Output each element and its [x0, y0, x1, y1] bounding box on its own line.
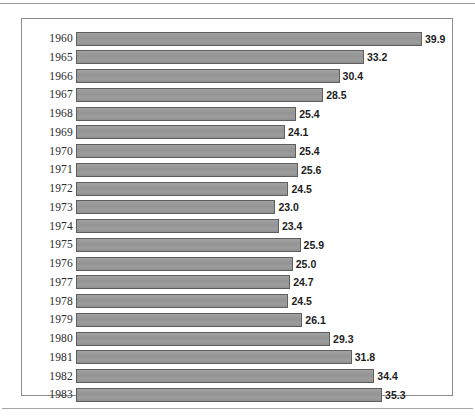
bar-value-label-1971: 25.6 [301, 163, 321, 177]
bar-value-label-1966: 30.4 [343, 69, 363, 83]
bar-1978 [76, 294, 288, 308]
bar-track: 28.5 [76, 85, 452, 104]
chart-row: 196728.5 [22, 85, 452, 104]
chart-row: 196630.4 [22, 67, 452, 86]
bar-1969 [76, 125, 285, 139]
bar-1972 [76, 182, 288, 196]
chart-row: 197525.9 [22, 235, 452, 254]
chart-row: 197025.4 [22, 142, 452, 161]
chart-row: 197926.1 [22, 310, 452, 329]
bar-track: 24.5 [76, 292, 452, 311]
bar-1982 [76, 369, 374, 383]
category-label-1960: 1960 [22, 29, 73, 48]
category-label-1968: 1968 [22, 104, 73, 123]
category-label-1966: 1966 [22, 67, 73, 86]
category-label-1971: 1971 [22, 160, 73, 179]
bar-value-label-1969: 24.1 [288, 125, 308, 139]
bar-value-label-1979: 26.1 [305, 313, 325, 327]
bar-1979 [76, 313, 302, 327]
plot-area: 196039.9196533.2196630.4196728.5196825.4… [22, 19, 452, 395]
bar-track: 29.3 [76, 329, 452, 348]
bar-1983 [76, 388, 382, 402]
chart-row: 196533.2 [22, 48, 452, 67]
chart-row: 197125.6 [22, 160, 452, 179]
bar-1981 [76, 350, 352, 364]
bar-track: 24.5 [76, 179, 452, 198]
bar-1973 [76, 200, 275, 214]
bar-track: 25.6 [76, 160, 452, 179]
bar-value-label-1967: 28.5 [326, 88, 346, 102]
bar-track: 24.1 [76, 123, 452, 142]
category-label-1980: 1980 [22, 329, 73, 348]
category-label-1970: 1970 [22, 142, 73, 161]
category-label-1967: 1967 [22, 85, 73, 104]
bar-value-label-1981: 31.8 [355, 350, 375, 364]
bar-1974 [76, 219, 279, 233]
category-label-1981: 1981 [22, 348, 73, 367]
bar-value-label-1968: 25.4 [299, 107, 319, 121]
bar-track: 23.4 [76, 217, 452, 236]
chart-row: 198335.3 [22, 385, 452, 404]
bar-1975 [76, 238, 301, 252]
page-rule-top [0, 3, 475, 4]
bar-1967 [76, 88, 323, 102]
bar-value-label-1965: 33.2 [367, 50, 387, 64]
bar-track: 30.4 [76, 67, 452, 86]
chart-row: 196825.4 [22, 104, 452, 123]
bar-track: 23.0 [76, 198, 452, 217]
bar-1976 [76, 257, 293, 271]
bar-1968 [76, 107, 296, 121]
bar-track: 25.0 [76, 254, 452, 273]
bar-1980 [76, 332, 330, 346]
bar-1971 [76, 163, 298, 177]
bar-value-label-1974: 23.4 [282, 219, 302, 233]
category-label-1977: 1977 [22, 273, 73, 292]
bar-value-label-1978: 24.5 [291, 294, 311, 308]
bar-track: 25.4 [76, 104, 452, 123]
category-label-1979: 1979 [22, 310, 73, 329]
chart-row: 196924.1 [22, 123, 452, 142]
chart-row: 198131.8 [22, 348, 452, 367]
chart-frame: 196039.9196533.2196630.4196728.5196825.4… [21, 18, 453, 396]
bar-track: 33.2 [76, 48, 452, 67]
bar-track: 31.8 [76, 348, 452, 367]
bar-1977 [76, 275, 290, 289]
chart-row: 197224.5 [22, 179, 452, 198]
bar-value-label-1975: 25.9 [304, 238, 324, 252]
bar-track: 35.3 [76, 385, 452, 404]
chart-row: 198029.3 [22, 329, 452, 348]
chart-row: 197724.7 [22, 273, 452, 292]
category-label-1983: 1983 [22, 385, 73, 404]
bar-value-label-1970: 25.4 [299, 144, 319, 158]
bar-value-label-1980: 29.3 [333, 332, 353, 346]
category-label-1965: 1965 [22, 48, 73, 67]
bar-track: 34.4 [76, 367, 452, 386]
bar-value-label-1973: 23.0 [278, 200, 298, 214]
bar-value-label-1976: 25.0 [296, 257, 316, 271]
category-label-1974: 1974 [22, 217, 73, 236]
category-label-1969: 1969 [22, 123, 73, 142]
category-label-1982: 1982 [22, 367, 73, 386]
bar-1965 [76, 50, 364, 64]
category-label-1975: 1975 [22, 235, 73, 254]
chart-row: 197625.0 [22, 254, 452, 273]
category-label-1972: 1972 [22, 179, 73, 198]
bar-track: 25.4 [76, 142, 452, 161]
bar-value-label-1982: 34.4 [377, 369, 397, 383]
page-rule-bottom [2, 408, 473, 409]
bar-value-label-1960: 39.9 [425, 32, 445, 46]
bar-track: 26.1 [76, 310, 452, 329]
category-label-1976: 1976 [22, 254, 73, 273]
bar-value-label-1977: 24.7 [293, 275, 313, 289]
category-label-1973: 1973 [22, 198, 73, 217]
bar-track: 25.9 [76, 235, 452, 254]
chart-row: 198234.4 [22, 367, 452, 386]
bar-1966 [76, 69, 340, 83]
bar-track: 39.9 [76, 29, 452, 48]
bar-1970 [76, 144, 296, 158]
bar-1960 [76, 32, 422, 46]
bar-value-label-1972: 24.5 [291, 182, 311, 196]
bar-value-label-1983: 35.3 [385, 388, 405, 402]
category-label-1978: 1978 [22, 292, 73, 311]
bar-track: 24.7 [76, 273, 452, 292]
